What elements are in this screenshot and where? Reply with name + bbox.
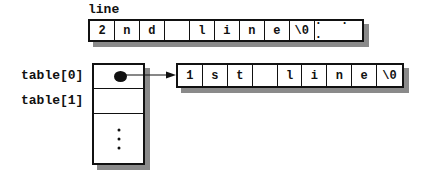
str-cell: e [352,65,377,86]
str-cell: i [302,65,327,86]
str-cell: t [228,65,253,86]
str-cell: 1 [178,65,203,86]
str-cell: \0 [377,65,402,86]
str-cell [253,65,278,86]
pointer-arrow [0,0,426,179]
str-cell: l [278,65,303,86]
str-cell: s [203,65,228,86]
first-line-array: 1 s t l i n e \0 [176,63,404,88]
str-cell: n [327,65,352,86]
arrow-head-icon [166,72,176,79]
